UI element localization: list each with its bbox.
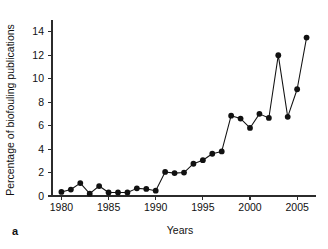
x-tick-label: 2005 — [285, 201, 309, 213]
data-point — [143, 186, 149, 192]
data-point — [59, 189, 65, 195]
data-point — [68, 187, 74, 193]
data-point — [87, 191, 93, 197]
data-point — [294, 86, 300, 92]
y-axis-title: Percentage of biofouling publications — [4, 24, 16, 196]
y-tick-label: 2 — [38, 166, 44, 178]
data-point — [285, 114, 291, 120]
x-tick-label: 1990 — [144, 201, 168, 213]
data-point — [266, 115, 272, 121]
x-tick-label: 1980 — [50, 201, 74, 213]
data-point — [209, 151, 215, 157]
data-point — [125, 190, 131, 196]
data-point — [172, 170, 178, 176]
data-point — [153, 188, 159, 194]
data-point — [228, 113, 234, 119]
x-tick-label: 1985 — [97, 201, 121, 213]
data-point — [77, 180, 83, 186]
data-point — [275, 52, 281, 58]
data-point — [181, 170, 187, 176]
data-point — [106, 190, 112, 196]
axis-frame — [52, 20, 316, 196]
y-tick-label: 14 — [32, 25, 44, 37]
y-tick-label: 10 — [32, 72, 44, 84]
y-tick-label: 4 — [38, 143, 44, 155]
data-point — [115, 190, 121, 196]
data-point — [257, 111, 263, 117]
x-axis-ticks — [61, 196, 297, 200]
y-axis-ticks — [48, 32, 52, 196]
data-point — [96, 183, 102, 189]
data-point — [247, 125, 253, 131]
data-point — [238, 116, 244, 122]
y-tick-label: 12 — [32, 49, 44, 61]
data-point — [200, 157, 206, 163]
series-markers — [59, 35, 310, 197]
x-tick-label: 1995 — [191, 201, 215, 213]
data-point — [162, 169, 168, 175]
line-chart: 02468101214 198019851990199520002005 Per… — [0, 0, 328, 249]
y-axis-tick-labels: 02468101214 — [32, 25, 44, 201]
x-axis-title: Years — [167, 224, 193, 236]
axis-lines — [52, 20, 316, 196]
data-point — [191, 161, 197, 167]
x-tick-label: 2000 — [238, 201, 262, 213]
x-axis-tick-labels: 198019851990199520002005 — [50, 201, 309, 213]
y-tick-label: 6 — [38, 119, 44, 131]
y-tick-label: 8 — [38, 96, 44, 108]
data-point — [134, 185, 140, 191]
panel-label: a — [12, 225, 19, 237]
figure-panel-a: 02468101214 198019851990199520002005 Per… — [0, 0, 328, 249]
data-point — [304, 35, 310, 41]
y-tick-label: 0 — [38, 190, 44, 202]
data-point — [219, 149, 225, 155]
